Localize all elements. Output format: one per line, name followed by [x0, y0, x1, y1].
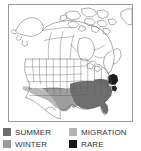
summer-swatch	[3, 128, 11, 136]
legend-row: WINTER RARE	[0, 138, 141, 150]
arctic-islands-outline	[60, 8, 116, 35]
greenland-edge-outline	[121, 9, 132, 25]
range-summer-southeast	[70, 79, 112, 114]
legend-label-summer: SUMMER	[15, 128, 51, 137]
legend-item-winter: WINTER	[3, 138, 47, 150]
legend-label-migration: MIGRATION	[81, 128, 127, 137]
legend-label-rare: RARE	[81, 140, 104, 149]
alaska-outline	[16, 18, 44, 37]
legend-label-winter: WINTER	[15, 140, 47, 149]
map-panel	[8, 4, 133, 122]
north-america-map	[9, 5, 132, 121]
hudson-bay-outline	[78, 37, 95, 61]
range-map-figure: SUMMER MIGRATION WINTER RARE	[0, 0, 141, 151]
usa-west-coast	[25, 59, 30, 97]
migration-swatch	[69, 128, 77, 136]
map-legend: SUMMER MIGRATION WINTER RARE	[0, 125, 141, 151]
legend-item-migration: MIGRATION	[69, 126, 127, 138]
rare-swatch	[69, 140, 77, 148]
legend-item-summer: SUMMER	[3, 126, 51, 138]
legend-row: SUMMER MIGRATION	[0, 126, 141, 138]
winter-swatch	[3, 140, 11, 148]
legend-item-rare: RARE	[69, 138, 104, 150]
